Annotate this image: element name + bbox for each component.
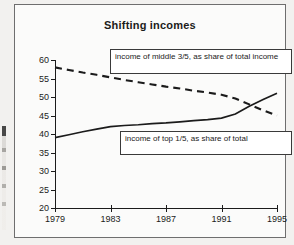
y-tick-label-55: 55 [39, 74, 49, 84]
legend-box-top-fifth: income of top 1/5, as share of total [120, 131, 292, 155]
y-tick-label-20: 20 [39, 203, 49, 213]
y-tick-label-30: 30 [39, 166, 49, 176]
y-tick-label-40: 40 [39, 129, 49, 139]
y-tick-label-35: 35 [39, 148, 49, 158]
scan-edge-artifact [2, 126, 6, 230]
legend-box-middle-fifths: income of middle 3/5, as share of total … [110, 49, 292, 74]
y-tick-label-25: 25 [39, 185, 49, 195]
x-tick-label-1987: 1987 [156, 214, 176, 224]
series-line-middle-fifths [55, 67, 277, 115]
x-tick-label-1995: 1995 [267, 214, 287, 224]
x-tick-label-1991: 1991 [211, 214, 231, 224]
y-tick-label-45: 45 [39, 111, 49, 121]
legend-label-top-fifth: income of top 1/5, as share of total [121, 132, 248, 143]
x-tick-label-1983: 1983 [100, 214, 120, 224]
y-tick-label-60: 60 [39, 55, 49, 65]
chart-title: Shifting incomes [15, 19, 285, 31]
legend-label-middle-fifths: income of middle 3/5, as share of total … [111, 50, 278, 61]
x-tick-label-1979: 1979 [45, 214, 65, 224]
chart-frame: Shifting incomes 202530354045505560 1979… [14, 4, 286, 238]
y-tick-label-50: 50 [39, 92, 49, 102]
